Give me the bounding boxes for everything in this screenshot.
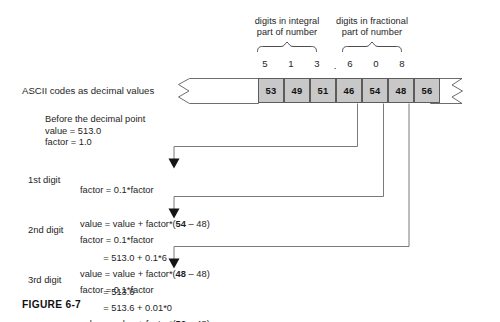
step-label-2nd-digit: 2nd digit	[28, 224, 63, 235]
ascii-cell-4: 54	[362, 78, 388, 103]
step-label-1st-digit: 1st digit	[28, 174, 60, 185]
group-label-fractional-line1: digits in fractional	[322, 16, 422, 27]
step3-line1: factor = 0.1*factor	[80, 285, 210, 296]
number-digit-0: 5	[257, 58, 273, 69]
number-digit-4: 0	[368, 58, 384, 69]
brace-integral	[258, 42, 317, 52]
group-label-fractional: digits in fractional part of number	[322, 16, 422, 38]
ascii-cell-0: 53	[258, 78, 284, 103]
step-label-3rd-digit: 3rd digit	[28, 274, 61, 285]
ascii-ribbon-label: ASCII codes as decimal values	[22, 85, 154, 96]
ascii-cell-5: 48	[388, 78, 414, 103]
brace-fractional	[343, 42, 402, 52]
step-calc-3rd-digit: factor = 0.1*factor value = value + fact…	[80, 262, 210, 322]
step2-line1: factor = 0.1*factor	[80, 235, 210, 246]
ascii-cell-2: 51	[310, 78, 336, 103]
ascii-cell-1: 49	[284, 78, 310, 103]
diagram-vector-layer	[0, 0, 500, 322]
before-decimal-title: Before the decimal point	[45, 114, 145, 126]
number-decimal-point: .	[329, 60, 341, 71]
before-decimal-block: Before the decimal point value = 513.0 f…	[45, 114, 145, 149]
before-decimal-value: value = 513.0	[45, 126, 145, 138]
before-decimal-factor: factor = 1.0	[45, 137, 145, 149]
number-digit-2: 3	[309, 58, 325, 69]
figure-caption: FIGURE 6-7	[22, 299, 81, 310]
number-digit-5: 8	[394, 58, 410, 69]
figure-canvas: digits in integral part of number digits…	[0, 0, 500, 322]
number-digit-1: 1	[283, 58, 299, 69]
step1-line1: factor = 0.1*factor	[80, 185, 210, 196]
leader-line-1st-digit	[174, 104, 358, 160]
ascii-cell-6: 56	[414, 78, 440, 103]
group-label-fractional-line2: part of number	[322, 27, 422, 38]
ascii-cell-3: 46	[336, 78, 362, 103]
number-digit-3: 6	[342, 58, 358, 69]
